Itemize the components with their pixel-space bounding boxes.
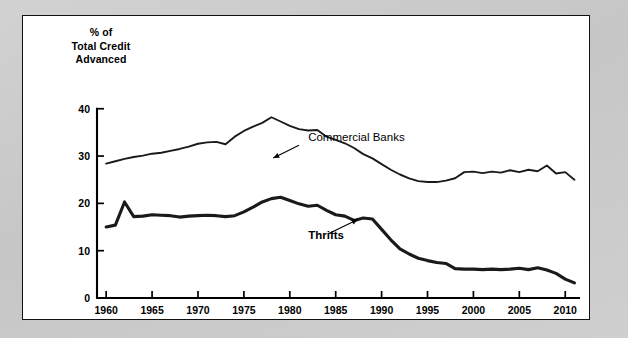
annotation-label-thrifts: Thrifts: [308, 229, 344, 241]
y-tick-label-10: 10: [78, 245, 90, 257]
line-chart-plot: 010203040 196019651970197519801985199019…: [23, 16, 590, 320]
figure-root: % of Total Credit Advanced 010203040 196…: [0, 0, 628, 338]
y-tick-label-40: 40: [78, 103, 90, 115]
annotation-label-commercial-banks: Commercial Banks: [308, 131, 405, 143]
chart-panel: % of Total Credit Advanced 010203040 196…: [22, 15, 590, 320]
x-tick-label-1985: 1985: [324, 304, 348, 316]
x-tick-label-2000: 2000: [462, 304, 486, 316]
x-tick-label-1970: 1970: [186, 304, 210, 316]
y-axis-ticks: 010203040: [78, 103, 104, 304]
x-tick-label-1960: 1960: [95, 304, 119, 316]
x-tick-label-1990: 1990: [370, 304, 394, 316]
x-tick-label-1975: 1975: [232, 304, 256, 316]
x-tick-label-2005: 2005: [508, 304, 532, 316]
x-tick-label-1995: 1995: [416, 304, 440, 316]
y-tick-label-0: 0: [84, 292, 90, 304]
series-annotations-group: Commercial BanksThrifts: [273, 131, 405, 241]
y-tick-label-20: 20: [78, 197, 90, 209]
x-tick-label-2010: 2010: [554, 304, 578, 316]
x-axis-ticks: 1960196519701975198019851990199520002005…: [95, 291, 578, 316]
y-tick-label-30: 30: [78, 150, 90, 162]
x-tick-label-1965: 1965: [140, 304, 164, 316]
x-tick-label-1980: 1980: [278, 304, 302, 316]
series-line-commercial-banks: [106, 117, 574, 182]
